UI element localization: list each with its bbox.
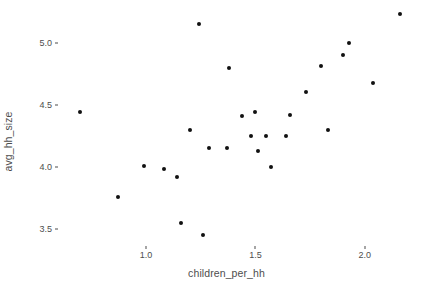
- scatter-plot-figure: avg_hh_size 3.54.04.55.0 1.01.52.0 child…: [0, 0, 421, 283]
- scatter-point: [142, 164, 146, 168]
- x-tick-mark: [364, 246, 365, 249]
- scatter-point: [116, 195, 120, 199]
- scatter-point: [304, 90, 308, 94]
- y-axis-title-text: avg_hh_size: [2, 111, 14, 171]
- scatter-point: [249, 134, 253, 138]
- y-tick-mark: [55, 166, 58, 167]
- scatter-point: [207, 146, 211, 150]
- y-axis-title: avg_hh_size: [0, 0, 16, 283]
- x-tick-mark: [146, 246, 147, 249]
- scatter-point: [175, 175, 179, 179]
- y-tick-label: 5.0: [28, 38, 52, 48]
- scatter-point: [284, 134, 288, 138]
- scatter-point: [371, 81, 375, 85]
- scatter-point: [264, 134, 268, 138]
- scatter-point: [347, 41, 351, 45]
- y-tick-label: 4.0: [28, 162, 52, 172]
- scatter-point: [269, 165, 273, 169]
- scatter-point: [197, 22, 201, 26]
- x-tick-label: 2.0: [358, 250, 371, 260]
- scatter-point: [288, 113, 292, 117]
- scatter-point: [256, 149, 260, 153]
- scatter-point: [398, 12, 402, 16]
- x-tick-label: 1.5: [249, 250, 262, 260]
- x-tick-mark: [255, 246, 256, 249]
- y-tick-mark: [55, 42, 58, 43]
- scatter-point: [162, 167, 166, 171]
- scatter-point: [78, 110, 82, 114]
- scatter-point: [225, 146, 229, 150]
- scatter-point: [188, 128, 192, 132]
- y-tick-mark: [55, 104, 58, 105]
- scatter-point: [341, 53, 345, 57]
- y-tick-label: 3.5: [28, 224, 52, 234]
- scatter-point: [240, 114, 244, 118]
- y-tick-mark: [55, 229, 58, 230]
- y-tick-label: 4.5: [28, 100, 52, 110]
- scatter-point: [201, 233, 205, 237]
- x-axis-title: children_per_hh: [0, 267, 421, 279]
- scatter-point: [179, 221, 183, 225]
- scatter-point: [319, 64, 323, 68]
- x-tick-label: 1.0: [140, 250, 153, 260]
- scatter-point: [227, 66, 231, 70]
- scatter-point: [326, 128, 330, 132]
- scatter-point: [253, 110, 257, 114]
- x-axis-title-text: children_per_hh: [188, 267, 265, 279]
- plot-panel: [63, 8, 415, 244]
